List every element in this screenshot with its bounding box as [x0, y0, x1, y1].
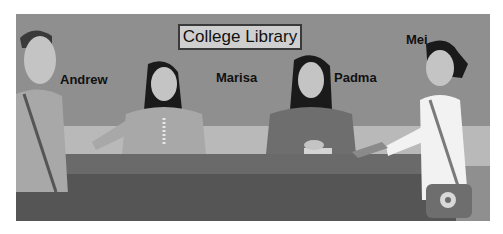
- mei-label: Mei: [406, 32, 428, 47]
- library-scene: College Library Andrew Marisa Padma Mei: [16, 14, 490, 221]
- andrew-label: Andrew: [60, 72, 108, 87]
- marisa-label: Marisa: [216, 70, 257, 85]
- padma-label: Padma: [334, 70, 377, 85]
- mei-figure: [346, 34, 486, 221]
- andrew-figure: [16, 24, 86, 221]
- college-library-sign: College Library: [178, 24, 302, 50]
